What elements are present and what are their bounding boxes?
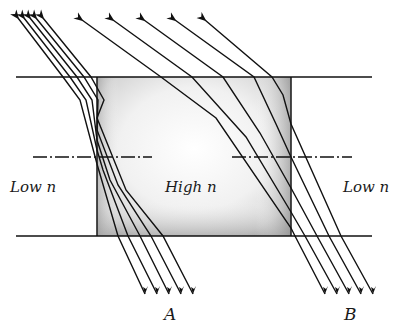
ray-group-b-bottom-arrows — [323, 286, 376, 294]
refraction-diagram: Low n High n Low n A B — [0, 0, 409, 334]
ray-group-a-bottom-arrows — [143, 286, 196, 294]
label-group-b: B — [344, 304, 357, 324]
label-group-a: A — [164, 304, 176, 324]
label-high-n: High n — [165, 178, 217, 196]
label-low-n-left: Low n — [10, 178, 56, 196]
label-low-n-right: Low n — [343, 178, 389, 196]
diagram-canvas — [0, 0, 409, 334]
